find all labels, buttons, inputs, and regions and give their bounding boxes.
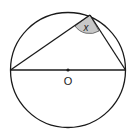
angle-label: x bbox=[83, 22, 90, 33]
center-point bbox=[66, 68, 69, 71]
center-label: O bbox=[64, 75, 73, 87]
chord-right bbox=[90, 15, 126, 70]
chord-left bbox=[11, 15, 91, 70]
circle-diagram: O x bbox=[0, 0, 135, 131]
